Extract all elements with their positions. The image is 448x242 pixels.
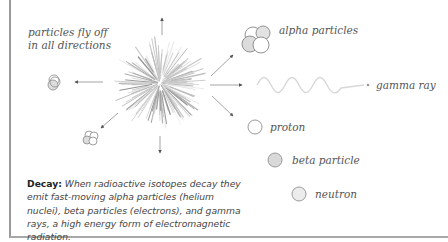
neutron-icon (292, 187, 306, 201)
beta-particle-label: beta particle (292, 154, 360, 167)
alpha-particle-icon (242, 26, 270, 53)
neutron-label: neutron (315, 188, 357, 201)
proton-label: proton (270, 121, 305, 134)
arrow-down-right-icon (212, 96, 233, 116)
caption-term: Decay: (27, 178, 62, 189)
alpha-particle-lower-icon (83, 131, 98, 145)
particles-fly-off-line-1: particles fly off (28, 26, 111, 39)
decay-caption: Decay: When radioactive isotopes decay t… (27, 177, 249, 242)
arrow-down-left-icon (101, 113, 118, 128)
beta-particle-icon (268, 153, 282, 167)
proton-icon (248, 120, 262, 134)
arrow-up-right-icon (211, 55, 233, 76)
alpha-particle-small-icon (48, 75, 60, 90)
particles-fly-off-line-2: in all directions (28, 39, 111, 52)
gamma-arrow-tip-icon (367, 84, 370, 87)
particles-fly-off-label: particles fly off in all directions (28, 26, 111, 52)
nucleus-starburst-icon (115, 37, 206, 128)
gamma-ray-wave-icon (257, 78, 364, 93)
gamma-ray-label: gamma ray (376, 79, 436, 92)
alpha-particles-label: alpha particles (279, 24, 358, 37)
